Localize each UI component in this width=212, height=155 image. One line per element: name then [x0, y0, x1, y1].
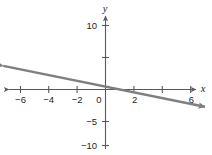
- graph-canvas: −6 −4 −2 2 6 10 −5 −10 0 x y: [0, 0, 212, 155]
- coordinate-plane-graph: −6 −4 −2 2 6 10 −5 −10 0 x y: [0, 0, 212, 155]
- y-tick-label--10: −10: [81, 140, 97, 151]
- x-tick-label--6: −6: [15, 94, 26, 105]
- linear-function-line: [3, 66, 205, 107]
- x-tick-label--4: −4: [43, 94, 54, 105]
- origin-label: 0: [96, 94, 101, 105]
- y-tick-label-10: 10: [86, 20, 97, 31]
- y-axis-label: y: [102, 3, 108, 14]
- x-tick-label-2: 2: [132, 94, 137, 105]
- y-tick-label--5: −5: [86, 116, 97, 127]
- x-tick-label--2: −2: [72, 94, 83, 105]
- x-axis-label: x: [200, 83, 206, 94]
